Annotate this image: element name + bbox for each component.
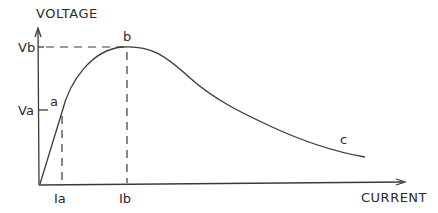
point-a-label: a: [50, 94, 58, 109]
va-label: Va: [18, 103, 34, 118]
voltage-current-diagram: VOLTAGE CURRENT Vb Va Ia Ib a b c: [0, 0, 438, 213]
ia-label: Ia: [54, 191, 66, 206]
x-axis-label: CURRENT: [361, 190, 427, 205]
x-axis: [39, 182, 404, 185]
point-c-label: c: [340, 132, 347, 147]
vb-label: Vb: [18, 40, 35, 55]
y-axis: [38, 29, 39, 185]
ib-label: Ib: [119, 191, 131, 206]
y-axis-label: VOLTAGE: [36, 6, 98, 21]
voltage-current-curve: [40, 47, 365, 184]
point-b-label: b: [123, 29, 131, 44]
